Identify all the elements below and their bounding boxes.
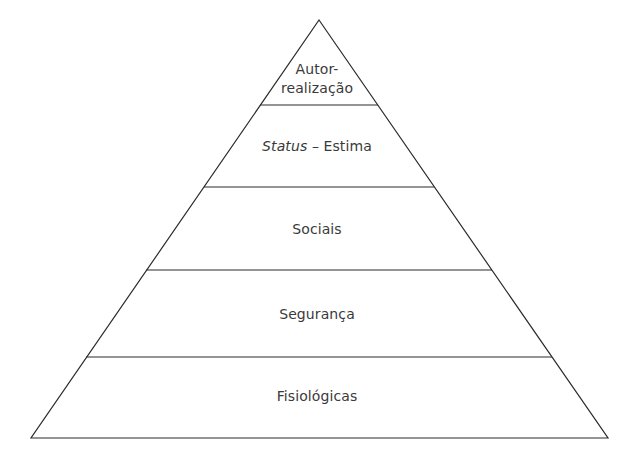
tier-self-actualization: Autor- realização [0, 60, 634, 98]
tier-safety: Segurança [0, 305, 634, 323]
tier-esteem-italic: Status [262, 138, 307, 154]
tier-social: Sociais [0, 220, 634, 238]
tier-esteem-rest: – Estima [307, 138, 372, 154]
maslow-pyramid-diagram: Autor- realização Status – Estima Sociai… [0, 0, 634, 471]
tier-esteem: Status – Estima [0, 137, 634, 155]
tier-self-actualization-line1: Autor- [0, 60, 634, 79]
tier-self-actualization-line2: realização [0, 79, 634, 98]
tier-physiological: Fisiológicas [0, 387, 634, 405]
